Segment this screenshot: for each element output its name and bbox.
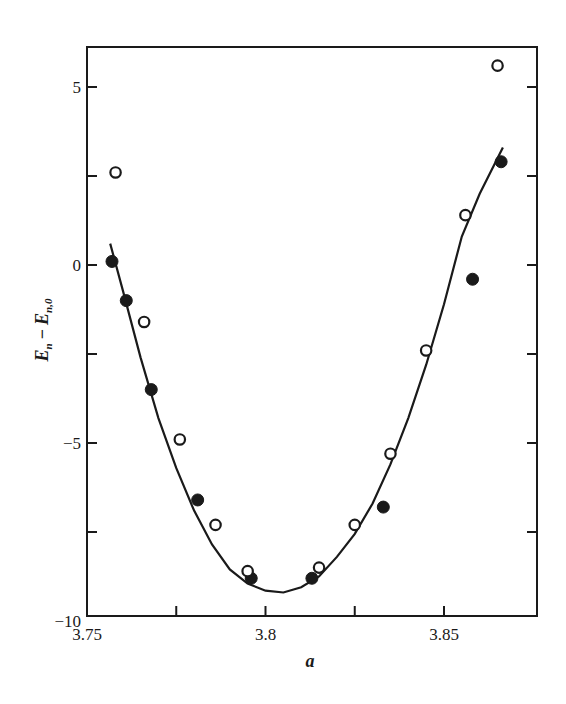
fitted-curve (110, 148, 503, 593)
open-data-point (492, 60, 502, 70)
plot-frame (87, 47, 537, 616)
y-axis-ticks: 50−5−10 (54, 78, 97, 631)
open-data-point (210, 520, 220, 530)
data-points (106, 60, 507, 584)
x-axis-ticks: 3.753.83.85 (72, 606, 459, 644)
chart: 3.753.83.85 50−5−10 a En−En,0 (0, 0, 566, 704)
y-axis-title: En−En,0 (32, 298, 54, 362)
open-data-point (175, 434, 185, 444)
open-data-point (421, 345, 431, 355)
filled-data-point (377, 501, 389, 513)
open-data-point (350, 520, 360, 530)
x-axis-title: a (306, 651, 315, 671)
filled-data-point (495, 156, 507, 168)
y-tick-label: 0 (73, 256, 82, 275)
open-data-point (314, 562, 324, 572)
y-axis-ticks-right (527, 87, 537, 532)
x-tick-label: 3.85 (429, 625, 459, 644)
filled-data-point (467, 273, 479, 285)
filled-data-point (306, 572, 318, 584)
filled-data-point (145, 384, 157, 396)
open-data-point (385, 448, 395, 458)
svg-text:En−En,0: En−En,0 (32, 298, 54, 362)
y-tick-label: 5 (73, 78, 82, 97)
filled-data-point (120, 295, 132, 307)
y-tick-label: −10 (54, 612, 81, 631)
y-tick-label: −5 (63, 434, 81, 453)
x-tick-label: 3.8 (255, 625, 276, 644)
filled-data-point (192, 494, 204, 506)
open-data-point (460, 210, 470, 220)
open-data-point (110, 167, 120, 177)
open-data-point (139, 317, 149, 327)
filled-data-point (106, 255, 118, 267)
open-data-point (242, 566, 252, 576)
